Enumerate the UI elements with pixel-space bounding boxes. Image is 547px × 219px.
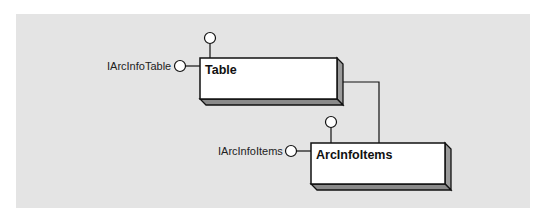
interface-circle-icon (286, 146, 297, 157)
interface-lollipop-arcinfoitems-top (326, 117, 337, 144)
interface-circle-icon (205, 33, 216, 44)
association-connector (343, 82, 379, 143)
interface-lollipop-table-top (205, 33, 216, 59)
diagram-canvas (0, 0, 547, 219)
interface-lollipop-iarcinfotable (175, 61, 201, 72)
class-name-arcinfoitems: ArcInfoItems (316, 148, 392, 162)
interface-circle-icon (326, 117, 337, 128)
table-box-side (337, 58, 343, 105)
interface-label-iarcinfotable: IArcInfoTable (107, 60, 171, 72)
arcinfoitems-box-side (445, 143, 451, 190)
interface-label-iarcinfoitems: IArcInfoItems (218, 145, 283, 157)
interface-lollipop-iarcinfoitems (286, 146, 312, 157)
arcinfoitems-box-bottom (311, 184, 451, 190)
interface-circle-icon (175, 61, 186, 72)
class-name-table: Table (205, 63, 237, 77)
table-box-bottom (200, 99, 343, 105)
